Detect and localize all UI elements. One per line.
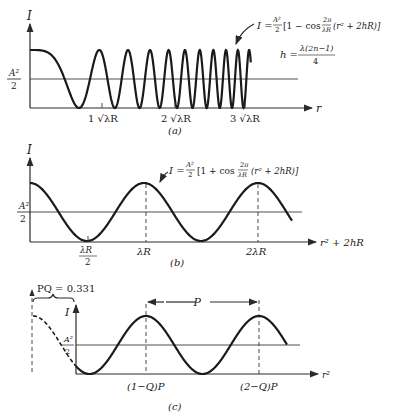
svg-text:A²: A² [272,16,281,24]
h-formula: h = λ(2n−1) 4 [280,44,335,66]
tick-label-half-den: 2 [85,257,90,267]
tick-label-lambdaR: λR [136,246,151,257]
svg-text:4: 4 [313,57,318,66]
svg-text:[1 + cos: [1 + cos [197,166,235,176]
svg-text:A²: A² [185,161,194,169]
formula-b: I = A² 2 [1 + cos 2π λR (r² + 2hR)] [168,161,299,179]
svg-text:(r² + 2hR)]: (r² + 2hR)] [251,166,299,176]
svg-text:2: 2 [188,171,192,179]
caption-a: (a) [168,125,182,136]
formula-pointer-arrow [160,172,168,182]
formula-a: I = A² 2 [1 − cos 2π λR (r² + 2hR)] [256,16,381,34]
svg-text:I =: I = [168,165,185,176]
tick-label-2: (2−Q)P [240,381,278,392]
svg-text:I =: I = [256,20,273,31]
tick-label-half-num: λR [79,245,92,255]
caption-c: (c) [168,401,182,412]
formula-pointer-arrow [236,24,254,44]
mid-label-num: A² [18,201,29,211]
svg-text:2π: 2π [322,16,332,24]
x-axis-label: r² + 2hR [320,237,364,248]
svg-text:[1 − cos: [1 − cos [283,21,321,31]
svg-text:2π: 2π [239,161,249,169]
tick-label-2: 2 √λR [161,113,191,124]
offset-label: PQ = 0.331 [37,283,95,294]
mid-label-num: A² [8,68,19,78]
mid-label-den: 2 [65,347,70,356]
tick-label-3: 3 √λR [230,113,260,124]
svg-text:λ(2n−1): λ(2n−1) [299,44,333,53]
y-axis-label: I [26,143,32,157]
offset-brace [33,294,74,302]
svg-text:λR: λR [321,26,331,34]
panel-c: P PQ = 0.331 I r² A² 2 (1−Q)P (2−Q)P (c) [32,283,330,412]
tick-label-1: (1−Q)P [127,381,165,392]
y-axis-label: I [26,9,32,23]
svg-text:(r² + 2hR)]: (r² + 2hR)] [333,21,381,31]
diffraction-intensity-figure: I r A² 2 1 √λR 2 √λR 3 √λR (a) I = A² 2 … [0,0,394,416]
y-axis-label: I [64,306,70,319]
x-axis-label: r [316,102,322,115]
mid-label-num: A² [63,335,73,344]
svg-text:λR: λR [237,171,247,179]
mid-label-den: 2 [20,214,26,224]
panel-b: I r² + 2hR A² 2 λR 2 λR 2λR (b) I = A² 2… [17,143,364,268]
caption-b: (b) [170,257,184,268]
panel-a: I r A² 2 1 √λR 2 √λR 3 √λR (a) I = A² 2 … [7,9,381,136]
svg-text:2: 2 [275,26,279,34]
mid-label-den: 2 [11,81,17,91]
tick-label-1: 1 √λR [88,113,118,124]
x-axis-label: r² [322,370,330,380]
tick-label-2lambdaR: 2λR [245,246,267,257]
svg-text:h =: h = [280,49,298,60]
